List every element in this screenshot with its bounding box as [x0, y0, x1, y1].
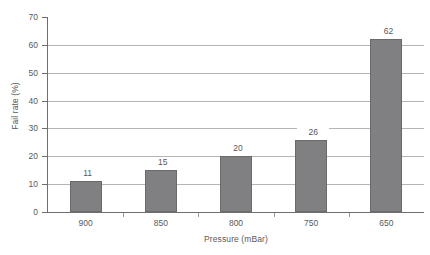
- y-axis-tick-label: 0: [8, 208, 38, 217]
- y-axis-tick-label: 40: [8, 97, 38, 106]
- y-axis-tick: [42, 184, 47, 185]
- y-axis-tick-label: 70: [8, 13, 38, 22]
- x-axis-tick: [123, 213, 124, 217]
- x-axis-category-label: 800: [216, 219, 256, 228]
- x-axis-title: Pressure (mBar): [48, 234, 424, 244]
- bar: [295, 140, 327, 212]
- x-axis-line: [48, 212, 424, 213]
- y-axis-tick: [42, 17, 47, 18]
- y-axis-tick: [42, 45, 47, 46]
- y-axis-tick-label: 10: [8, 180, 38, 189]
- y-axis-tick: [42, 156, 47, 157]
- y-axis-tick: [42, 212, 47, 213]
- bar: [370, 39, 402, 212]
- x-axis-category-label: 750: [291, 219, 331, 228]
- bar: [220, 156, 252, 212]
- bar-value-label: 26: [297, 128, 329, 137]
- bar: [70, 181, 102, 212]
- bar-value-label: 15: [147, 158, 179, 167]
- bar-value-label: 20: [222, 144, 254, 153]
- bar-chart: Fail rate (%) 010203040506070 1115202662…: [0, 0, 430, 255]
- y-axis-title-text: Fail rate (%): [10, 82, 20, 130]
- bar: [145, 170, 177, 212]
- y-axis-tick-label: 20: [8, 152, 38, 161]
- y-axis-tick-label: 30: [8, 124, 38, 133]
- x-axis-category-label: 900: [66, 219, 106, 228]
- x-axis-tick: [274, 213, 275, 217]
- y-axis-tick: [42, 128, 47, 129]
- x-axis-category-label: 850: [141, 219, 181, 228]
- bar-value-label: 11: [72, 169, 104, 178]
- y-axis-tick-label: 60: [8, 41, 38, 50]
- x-axis-tick: [198, 213, 199, 217]
- bar-value-label: 62: [372, 27, 404, 36]
- x-axis-tick: [349, 213, 350, 217]
- y-axis-tick: [42, 101, 47, 102]
- y-axis-tick-label: 50: [8, 69, 38, 78]
- x-axis-category-label: 650: [366, 219, 406, 228]
- y-axis-tick: [42, 73, 47, 74]
- bars-area: [48, 17, 424, 212]
